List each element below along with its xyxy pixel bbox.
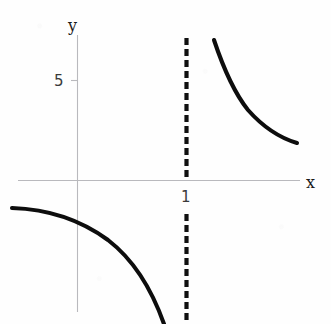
- x-axis-label: x: [306, 173, 315, 192]
- hyperbola-plot: y x 5 1: [0, 0, 331, 324]
- y-axis-label: y: [67, 16, 77, 35]
- y-tick-label-5: 5: [54, 72, 64, 90]
- graph-figure: y x 5 1: [0, 0, 331, 324]
- x-tick-label-1: 1: [181, 188, 191, 206]
- upper-right-branch-curve: [214, 40, 297, 143]
- lower-left-branch-curve: [12, 208, 164, 324]
